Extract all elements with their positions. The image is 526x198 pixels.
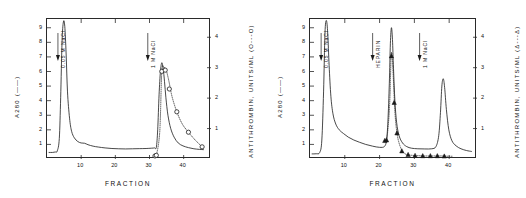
x-tick-label: 10 bbox=[335, 162, 353, 168]
y-tick-label-left: 1 bbox=[28, 140, 42, 146]
annotation-label: 1 M NaCl bbox=[150, 40, 156, 68]
data-point-marker bbox=[392, 100, 396, 104]
panel-b-y-axis-title-left: A280 (——) bbox=[277, 76, 283, 118]
data-point-marker bbox=[200, 145, 204, 149]
x-tick-label: 30 bbox=[140, 162, 158, 168]
data-point-marker bbox=[406, 152, 410, 156]
annotation-label: 0.05 M NaCl bbox=[60, 30, 66, 68]
x-tick-label: 20 bbox=[370, 162, 388, 168]
panel-a-canvas bbox=[47, 19, 209, 157]
data-point-marker bbox=[154, 153, 158, 157]
y-tick-label-left: 9 bbox=[291, 24, 305, 30]
y-tick-label-right: 4 bbox=[481, 33, 495, 39]
panel-a-svg bbox=[47, 19, 211, 159]
panel-a: A FRACTION A280 (——) ANTITHROMBIN, UNITS… bbox=[0, 0, 263, 198]
panel-a-plot-area bbox=[46, 18, 210, 158]
y-tick-label-right: 3 bbox=[481, 64, 495, 70]
x-tick-label: 30 bbox=[404, 162, 422, 168]
figure-chromatography: A FRACTION A280 (——) ANTITHROMBIN, UNITS… bbox=[0, 0, 526, 198]
data-point-marker bbox=[175, 110, 179, 114]
annotation-label: 1 M NaCl bbox=[422, 40, 428, 68]
y-tick-label-right: 4 bbox=[215, 33, 229, 39]
x-tick-label: 40 bbox=[439, 162, 457, 168]
y-tick-label-right: 2 bbox=[215, 94, 229, 100]
y-tick-label-left: 5 bbox=[28, 82, 42, 88]
y-tick-label-left: 4 bbox=[291, 97, 305, 103]
y-tick-label-right: 3 bbox=[215, 64, 229, 70]
y-tick-label-left: 9 bbox=[28, 24, 42, 30]
y-tick-label-left: 3 bbox=[28, 111, 42, 117]
y-tick-label-left: 6 bbox=[291, 68, 305, 74]
y-tick-label-left: 5 bbox=[291, 82, 305, 88]
y-tick-label-left: 1 bbox=[291, 140, 305, 146]
y-tick-label-left: 8 bbox=[28, 38, 42, 44]
data-point-marker bbox=[163, 68, 167, 72]
panel-a-y-axis-title-right: ANTITHROMBIN, UNITS/ML (O---O) bbox=[248, 24, 254, 158]
y-tick-label-left: 7 bbox=[291, 53, 305, 59]
panel-a-x-axis-title: FRACTION bbox=[46, 180, 210, 187]
y-tick-label-right: 1 bbox=[215, 125, 229, 131]
series-a280-line bbox=[49, 21, 203, 153]
panel-b-plot-area bbox=[309, 18, 476, 158]
annotation-arrow bbox=[418, 33, 422, 61]
x-tick-label: 40 bbox=[174, 162, 192, 168]
y-tick-label-left: 7 bbox=[28, 53, 42, 59]
y-tick-label-left: 6 bbox=[28, 68, 42, 74]
panel-a-y-axis-title-left: A280 (——) bbox=[14, 76, 20, 118]
annotation-label: 0.05 M NaCl bbox=[323, 30, 329, 68]
data-point-marker bbox=[167, 87, 171, 91]
y-tick-label-left: 2 bbox=[28, 126, 42, 132]
data-point-marker bbox=[400, 149, 404, 153]
series-a280-line bbox=[312, 20, 471, 153]
panel-b-canvas bbox=[310, 19, 475, 157]
y-tick-label-right: 2 bbox=[481, 94, 495, 100]
panel-b-svg bbox=[310, 19, 477, 159]
panel-b: B FRACTION A280 (——) ANTITHROMBIN, UNITS… bbox=[263, 0, 526, 198]
y-tick-label-left: 8 bbox=[291, 38, 305, 44]
annotation-label: HEPARIN bbox=[375, 40, 381, 68]
y-tick-label-right: 1 bbox=[481, 125, 495, 131]
panel-b-x-axis-title: FRACTION bbox=[309, 180, 476, 187]
y-tick-label-left: 4 bbox=[28, 97, 42, 103]
x-tick-label: 10 bbox=[71, 162, 89, 168]
y-tick-label-left: 3 bbox=[291, 111, 305, 117]
panel-b-y-axis-title-right: ANTITHROMBIN, UNITS/ML (Δ---Δ) bbox=[514, 26, 520, 158]
y-tick-label-left: 2 bbox=[291, 126, 305, 132]
x-tick-label: 20 bbox=[105, 162, 123, 168]
data-point-marker bbox=[186, 130, 190, 134]
